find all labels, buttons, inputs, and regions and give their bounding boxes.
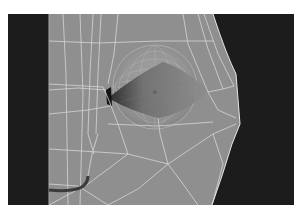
3d-viewport[interactable] — [8, 14, 294, 205]
viewport-canvas[interactable] — [8, 14, 294, 205]
